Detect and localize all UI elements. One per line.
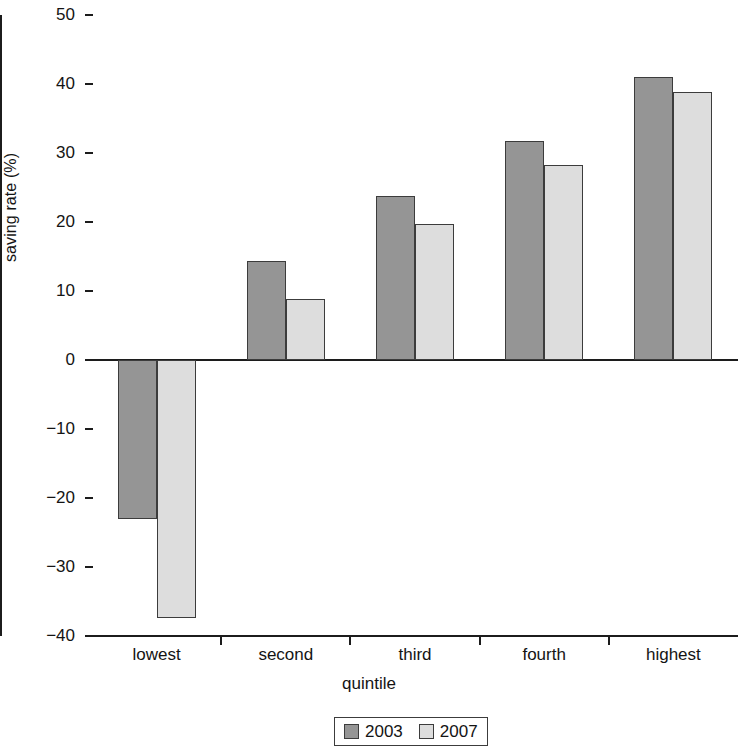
y-tick-label: −40	[3, 627, 75, 644]
x-tick	[479, 636, 481, 645]
y-tick	[85, 428, 93, 430]
y-axis-title: saving rate (%)	[2, 92, 28, 262]
y-tick-label: 10	[3, 282, 75, 299]
y-tick	[85, 635, 93, 637]
bar-second-2003	[247, 261, 286, 360]
y-tick	[85, 221, 93, 223]
y-tick-label: −20	[3, 489, 75, 506]
bar-third-2003	[376, 196, 415, 360]
bar-highest-2007	[673, 92, 712, 360]
x-axis-spine	[92, 635, 738, 637]
legend: 20032007	[334, 717, 488, 746]
y-tick-label: 30	[3, 144, 75, 161]
y-tick-label: −30	[3, 558, 75, 575]
x-tick-label-fourth: fourth	[469, 645, 619, 665]
x-tick	[220, 636, 222, 645]
x-tick-label-third: third	[340, 645, 490, 665]
y-tick	[85, 152, 93, 154]
y-tick-label: −10	[3, 420, 75, 437]
x-tick-label-highest: highest	[598, 645, 738, 665]
legend-swatch-2007	[419, 724, 434, 739]
y-tick-label: 40	[3, 75, 75, 92]
y-tick-label: 0	[3, 351, 75, 368]
y-tick	[85, 290, 93, 292]
legend-entry-2007: 2007	[419, 723, 478, 740]
bar-lowest-2003	[118, 360, 157, 519]
y-tick-label: 20	[3, 213, 75, 230]
y-tick	[85, 14, 93, 16]
y-tick	[85, 566, 93, 568]
legend-entry-2003: 2003	[344, 723, 403, 740]
legend-label-2007: 2007	[440, 723, 478, 740]
bar-lowest-2007	[157, 360, 196, 618]
x-tick	[608, 636, 610, 645]
x-tick-label-lowest: lowest	[82, 645, 232, 665]
x-tick-label-second: second	[211, 645, 361, 665]
x-axis-title: quintile	[0, 674, 738, 694]
bar-fourth-2003	[505, 141, 544, 360]
x-tick	[349, 636, 351, 645]
bar-second-2007	[286, 299, 325, 360]
y-tick	[85, 497, 93, 499]
y-tick-label: 50	[3, 6, 75, 23]
y-axis-spine	[0, 15, 2, 636]
y-tick	[85, 359, 93, 361]
bar-fourth-2007	[544, 165, 583, 360]
y-tick	[85, 83, 93, 85]
bar-third-2007	[415, 224, 454, 360]
bar-chart-figure: saving rate (%) 50403020100−10−20−30−40 …	[0, 0, 738, 754]
legend-swatch-2003	[344, 724, 359, 739]
legend-label-2003: 2003	[365, 723, 403, 740]
bar-highest-2003	[634, 77, 673, 360]
